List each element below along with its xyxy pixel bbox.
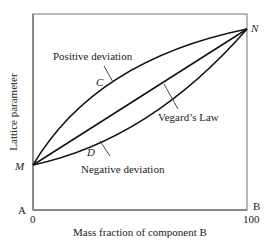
point-n-label: N — [250, 22, 259, 34]
c-leader-line — [104, 66, 113, 82]
corner-a-label: A — [18, 204, 26, 216]
vegard-law-label: Vegard’s Law — [158, 111, 219, 123]
point-m-label: M — [14, 160, 25, 172]
negative-deviation-label: Negative deviation — [81, 163, 165, 175]
corner-b-label: B — [253, 200, 260, 212]
x-axis-label: Mass fraction of component B — [73, 226, 207, 238]
x-tick-0: 0 — [30, 213, 36, 225]
d-marker-label: D — [86, 146, 95, 158]
x-tick-100: 100 — [243, 213, 260, 225]
diagram-canvas: Positive deviation C Vegard’s Law D Nega… — [0, 0, 278, 243]
y-axis-label: Lattice parameter — [7, 73, 19, 151]
positive-deviation-label: Positive deviation — [53, 50, 133, 62]
vegard-diagram: Positive deviation C Vegard’s Law D Nega… — [0, 0, 278, 243]
d-leader-line — [100, 141, 110, 156]
c-marker-label: C — [96, 76, 104, 88]
